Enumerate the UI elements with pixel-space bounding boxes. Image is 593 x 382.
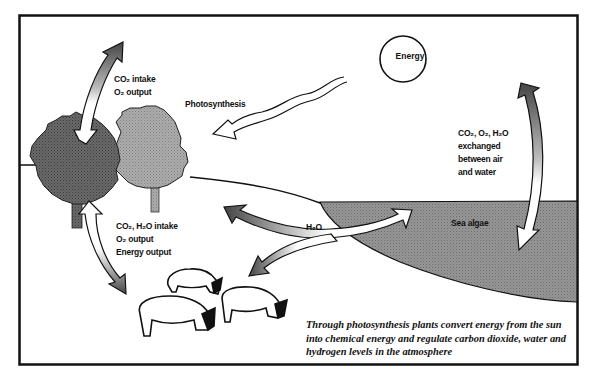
exchange-line-4: and water [458, 166, 509, 179]
animal-line-1: CO₂, H₂O intake [116, 220, 178, 233]
animal-line-3: Energy output [116, 246, 178, 259]
photosynthesis-label: Photosynthesis [185, 98, 246, 111]
exchange-line-3: between air [458, 153, 509, 166]
animal-exchange-label: CO₂, H₂O intake O₂ output Energy output [116, 220, 178, 259]
exchange-line-2: exchanged [458, 140, 509, 153]
exchange-line-1: CO₂, O₂, H₂O [458, 127, 509, 140]
exchange-label: CO₂, O₂, H₂O exchanged between air and w… [458, 127, 509, 179]
co2-intake-line: CO₂ intake [114, 73, 155, 86]
o2-output-line: O₂ output [114, 86, 155, 99]
diagram-caption: Through photosynthesis plants convert en… [306, 318, 576, 359]
energy-label: Energy [385, 51, 435, 61]
animal-line-2: O₂ output [116, 233, 178, 246]
co2-intake-label: CO₂ intake O₂ output [114, 73, 155, 99]
water-label: H₂O [306, 221, 322, 234]
sea-algae-label: Sea algae [451, 217, 488, 230]
